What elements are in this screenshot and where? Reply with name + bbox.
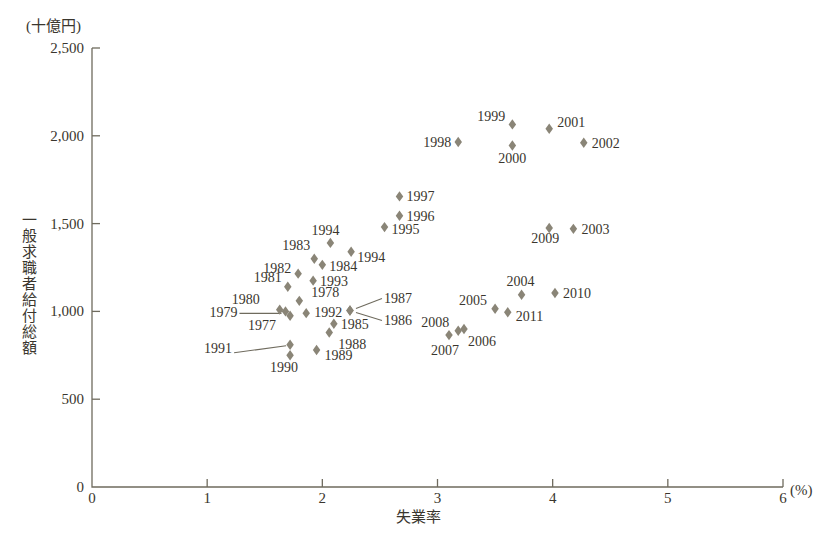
- point-label: 1998: [423, 135, 451, 150]
- data-marker: [346, 305, 353, 315]
- point-label: 1994: [357, 250, 385, 265]
- data-marker: [302, 308, 309, 318]
- point-label: 2002: [592, 136, 620, 151]
- point-label: 1977: [248, 318, 276, 333]
- point-label: 1985: [341, 317, 369, 332]
- data-marker: [504, 307, 511, 317]
- data-marker: [454, 326, 461, 336]
- data-marker: [509, 119, 516, 129]
- data-marker: [396, 191, 403, 201]
- leader-line: [234, 346, 286, 353]
- data-marker: [284, 282, 291, 292]
- data-marker: [580, 138, 587, 148]
- data-marker: [313, 345, 320, 355]
- data-marker: [296, 296, 303, 306]
- x-tick-label: 3: [434, 490, 442, 506]
- point-label: 1990: [270, 360, 298, 375]
- x-tick-label: 2: [319, 490, 327, 506]
- point-label: 2004: [507, 274, 535, 289]
- data-marker: [570, 224, 577, 234]
- data-marker: [286, 340, 293, 350]
- y-tick-label: 1,000: [50, 303, 84, 319]
- point-label: 2003: [581, 222, 609, 237]
- point-label: 1994: [311, 223, 339, 238]
- data-point-labels: 1977197819791980198119821983198419851986…: [204, 109, 620, 375]
- point-label: 1984: [329, 259, 357, 274]
- y-tick-label: 0: [77, 479, 85, 495]
- point-label: 1993: [320, 274, 348, 289]
- point-label: 2000: [498, 151, 526, 166]
- scatter-plot: 05001,0001,5002,0002,500 0123456 1977197…: [0, 0, 831, 538]
- y-tick-label: 1,500: [50, 216, 84, 232]
- point-label: 1995: [392, 222, 420, 237]
- point-label: 1983: [282, 238, 310, 253]
- point-label: 1996: [406, 209, 434, 224]
- data-marker: [319, 260, 326, 270]
- y-tick-label: 2,500: [50, 40, 84, 56]
- data-marker: [545, 124, 552, 134]
- point-label: 2010: [563, 286, 591, 301]
- data-marker: [311, 254, 318, 264]
- x-tick-label: 4: [549, 490, 557, 506]
- data-marker: [286, 350, 293, 360]
- point-label: 1992: [314, 305, 342, 320]
- data-marker: [294, 268, 301, 278]
- chart-container: (十億円) 一般求職者給付総額 失業率 (%) 05001,0001,5002,…: [0, 0, 831, 538]
- point-label: 1991: [204, 341, 232, 356]
- x-tick-label: 1: [203, 490, 211, 506]
- point-label: 2011: [516, 309, 543, 324]
- y-tick-label: 2,000: [50, 128, 84, 144]
- data-marker: [327, 238, 334, 248]
- data-marker: [381, 222, 388, 232]
- data-marker: [347, 246, 354, 256]
- y-tick-label: 500: [62, 391, 85, 407]
- x-tick-label: 6: [779, 490, 787, 506]
- point-label: 1989: [325, 348, 353, 363]
- point-label: 2001: [557, 115, 585, 130]
- point-label: 1999: [477, 109, 505, 124]
- data-marker: [509, 140, 516, 150]
- point-label: 2005: [459, 293, 487, 308]
- x-tick-label: 5: [664, 490, 672, 506]
- point-label: 1987: [384, 291, 412, 306]
- point-label: 2006: [468, 334, 496, 349]
- data-marker: [460, 324, 467, 334]
- point-label: 2008: [421, 315, 449, 330]
- axes-group: [92, 48, 783, 487]
- point-label: 1982: [263, 261, 291, 276]
- data-marker: [325, 327, 332, 337]
- x-axis-ticks: 0123456: [88, 479, 787, 506]
- data-marker: [518, 290, 525, 300]
- data-marker: [551, 288, 558, 298]
- point-label: 2007: [431, 343, 459, 358]
- data-marker: [396, 210, 403, 220]
- data-marker: [445, 330, 452, 340]
- point-label: 1980: [232, 292, 260, 307]
- leader-line: [356, 299, 382, 309]
- point-label: 1997: [406, 189, 434, 204]
- data-marker: [491, 304, 498, 314]
- point-label: 1979: [209, 305, 237, 320]
- point-label: 1986: [384, 313, 412, 328]
- data-marker: [454, 137, 461, 147]
- x-tick-label: 0: [88, 490, 96, 506]
- point-label: 2009: [531, 231, 559, 246]
